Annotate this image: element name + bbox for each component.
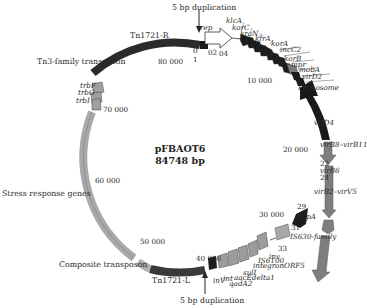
tick-40000: 40 000 — [196, 255, 221, 262]
gene-rep: rep — [200, 24, 212, 31]
is630-gene — [275, 224, 290, 240]
plasmid-size: 84748 bp — [140, 155, 220, 167]
tick-50000: 50 000 — [140, 238, 165, 245]
tick-80000: 80 000 — [158, 58, 183, 65]
tn1721-l-label: Tn1721-L — [152, 277, 190, 285]
gene-primosome: Primosome — [298, 84, 339, 91]
tick-24: 24 — [320, 174, 329, 181]
gene-virD2: virD2 — [302, 73, 322, 80]
tick-04: 04 — [219, 50, 228, 57]
gene-virB8-virB11: virB8–virB11 — [320, 141, 367, 148]
gene-incC2: incC2 — [280, 46, 301, 53]
composite-label: Composite transposon — [59, 261, 147, 269]
tick-70000: 70 000 — [103, 106, 128, 113]
tick-31: 31 — [291, 224, 300, 231]
tick-02: 02 — [208, 49, 217, 56]
gene-topA: topA — [299, 213, 316, 220]
tick-60000: 60 000 — [95, 177, 120, 184]
tick-29: 29 — [297, 203, 306, 210]
gene-virD4: virD4 — [314, 119, 334, 126]
dup-top-label: 5 bp duplication — [172, 4, 236, 12]
tn1721-l-segment — [150, 269, 205, 273]
plasmid-name: pFBAOT6 — [140, 143, 220, 155]
plasmid-title: pFBAOT6 84748 bp — [140, 143, 220, 167]
gene-is630: IS630-family — [290, 233, 336, 240]
tick-30000: 30 000 — [259, 211, 284, 218]
tick-10000: 10 000 — [247, 77, 272, 84]
gene-virB2-virB5: virB2–virV5 — [314, 188, 357, 195]
stress-response-segment — [83, 112, 134, 258]
tn3-family-label: Tn3-family transposon — [37, 58, 126, 66]
gene-kfrA: kfrA — [255, 35, 271, 42]
gene-trbI: trbI — [76, 97, 90, 104]
gene-integronORF5: integronORF5 — [253, 262, 305, 269]
dup-bottom-label: 5 bp duplication — [180, 297, 244, 305]
virB2-virB5-arrow — [312, 236, 330, 282]
gene-int: int — [223, 275, 233, 282]
tick-20000: 20 000 — [283, 146, 308, 153]
tn1721-r-label: Tn1721-R — [130, 32, 169, 40]
gene-virB6: virB6 — [320, 167, 340, 174]
stress-label: Stress response genes — [2, 190, 91, 198]
tick-0: 0 — [193, 47, 198, 54]
tick-1: 1 — [193, 56, 198, 63]
